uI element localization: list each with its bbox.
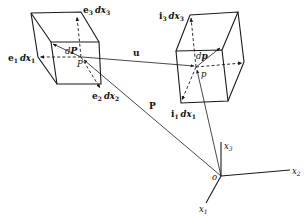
i3-label: i3dx3: [159, 11, 184, 22]
x2-label: x2: [292, 166, 301, 177]
coordinate-axes: x3 x2 x1 o: [199, 141, 301, 215]
P-vector-label: P: [149, 101, 156, 111]
e1-label: e1dx1: [8, 53, 35, 64]
diagram-svg: e3dx3 e1dx1 e2dx2 dP P u i3dx3 i1dx1 dp …: [0, 0, 304, 220]
x2-axis: [221, 170, 290, 176]
left-cube-edge: [31, 13, 51, 42]
x3-label: x3: [224, 141, 233, 152]
i2-vector: [196, 63, 242, 67]
e3-vector: [77, 17, 81, 57]
dP-label: dP: [65, 46, 77, 56]
i1-vector: [182, 67, 196, 100]
i1-label: i1dx1: [171, 109, 196, 120]
left-volume-element: e3dx3 e1dx1 e2dx2 dP P: [8, 5, 119, 102]
u-label: u: [133, 48, 140, 58]
left-cube-left-edge: [31, 13, 57, 84]
origin-label: o: [212, 172, 217, 182]
e2-vector: [81, 57, 100, 88]
e3-label: e3dx3: [83, 5, 110, 16]
x1-label: x1: [199, 204, 208, 215]
right-cube-back-edges: [176, 12, 244, 101]
P-point-label: P: [76, 59, 83, 69]
p-point-label: p: [201, 69, 207, 79]
e2-label: e2dx2: [92, 91, 119, 102]
position-vector-p: [197, 70, 221, 176]
right-cube-edge: [222, 12, 238, 50]
right-volume-element: i3dx3 i1dx1 dp p: [159, 11, 244, 120]
diagram-canvas: e3dx3 e1dx1 e2dx2 dP P u i3dx3 i1dx1 dp …: [0, 0, 304, 220]
dp-label: dp: [196, 51, 208, 61]
